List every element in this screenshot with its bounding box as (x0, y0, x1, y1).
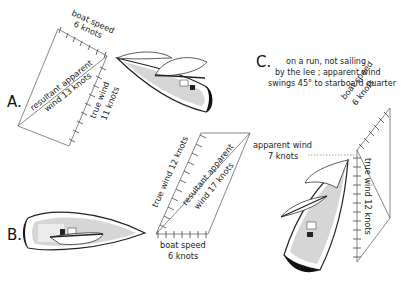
panel-c-true-wind-vector (353, 150, 361, 262)
panel-b: B. (7, 133, 250, 261)
panel-c-apparent-wind-label-1: apparent wind (253, 140, 312, 150)
panel-b-boat-speed-vector (156, 231, 208, 238)
wind-vector-diagram: A. (0, 0, 405, 282)
panel-c-apparent-wind-label-2: 7 knots (268, 151, 298, 161)
panel-c-true-wind-label: true wind 12 knots (363, 158, 373, 235)
panel-b-boat-speed-label-1: boat speed (160, 240, 206, 250)
panel-b-boat-speed-label-2: 6 knots (168, 251, 198, 261)
panel-a-parallelogram-side (18, 126, 69, 146)
panel-c-caption-line-3: swings 45° to starboard quarter (268, 79, 397, 88)
panel-a-letter: A. (7, 93, 22, 111)
panel-c-letter: C. (256, 53, 271, 71)
panel-a-parallelogram-side (18, 29, 58, 126)
panel-a-sailboat (117, 52, 212, 112)
panel-c-boat-speed-vector (357, 108, 390, 150)
panel-a: A. (7, 8, 212, 146)
panel-b-letter: B. (7, 226, 22, 244)
panel-b-sailboat (24, 212, 146, 249)
panel-c-caption-line-1: on a run, not sailing (286, 57, 366, 66)
panel-c-sailboat (281, 160, 348, 272)
panel-c: C. on a run, not sailing by the lee ; ap… (253, 53, 397, 272)
